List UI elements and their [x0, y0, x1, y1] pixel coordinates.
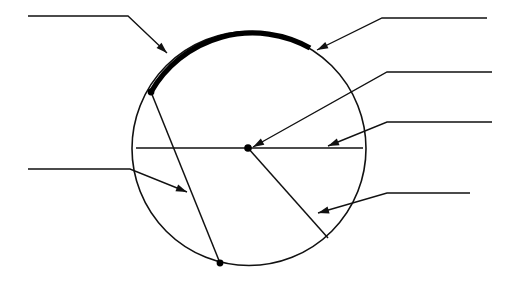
leader-line-chord — [28, 169, 187, 192]
radius-segment — [248, 148, 328, 238]
leader-line-circumference-arrowhead-icon — [317, 42, 328, 50]
leader-line-sector-arrowhead-icon — [318, 206, 330, 213]
leader-line-diameter-stem — [328, 122, 492, 146]
leader-line-sector-stem — [318, 193, 470, 213]
leader-line-chord-arrowhead-icon — [175, 185, 187, 192]
chord-segment — [151, 92, 220, 263]
circle-diagram-canvas — [0, 0, 505, 282]
chord-endpoint-lower — [217, 260, 224, 267]
highlight-arc — [151, 33, 310, 92]
arc-endpoint-upper — [148, 89, 155, 96]
leader-line-circumference-stem — [317, 18, 487, 50]
leader-line-arc — [28, 16, 167, 53]
leader-line-arc-stem — [28, 16, 167, 53]
leader-line-diameter — [328, 122, 492, 146]
circle-center-point — [244, 144, 252, 152]
leader-line-sector — [318, 193, 470, 213]
leader-line-radius-stem — [253, 72, 492, 147]
leader-line-circumference — [317, 18, 487, 50]
leader-line-diameter-arrowhead-icon — [328, 139, 340, 146]
leader-line-radius — [253, 72, 492, 147]
diagram-svg — [0, 0, 505, 282]
leader-line-chord-stem — [28, 169, 187, 192]
leader-line-radius-arrowhead-icon — [253, 138, 264, 147]
marked-points — [148, 89, 252, 267]
leader-lines — [28, 16, 492, 213]
